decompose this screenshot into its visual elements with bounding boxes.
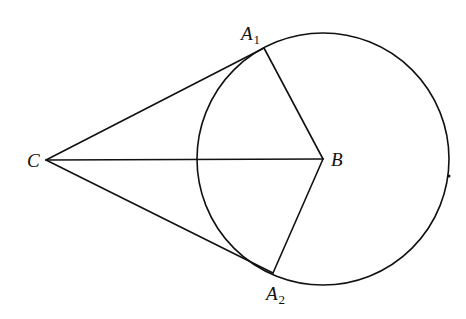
point-label-c: C bbox=[27, 150, 40, 171]
point-labels-group: CBA1A2 bbox=[27, 23, 343, 307]
segments-group bbox=[46, 48, 323, 273]
segment-BA1 bbox=[264, 48, 323, 159]
point-label-subscript: 1 bbox=[254, 32, 261, 47]
marks-group bbox=[448, 175, 451, 178]
segment-BA2 bbox=[273, 159, 323, 273]
point-label-a2: A2 bbox=[264, 283, 285, 307]
segment-CA1 bbox=[46, 48, 264, 160]
point-label-b: B bbox=[331, 149, 343, 170]
point-label-a1: A1 bbox=[239, 23, 260, 47]
circle-mark-dot bbox=[448, 175, 451, 178]
tangent-circle-diagram: CBA1A2 bbox=[0, 0, 466, 319]
point-label-subscript: 2 bbox=[279, 292, 286, 307]
segment-CA2 bbox=[46, 160, 273, 273]
segment-CB bbox=[46, 159, 323, 160]
